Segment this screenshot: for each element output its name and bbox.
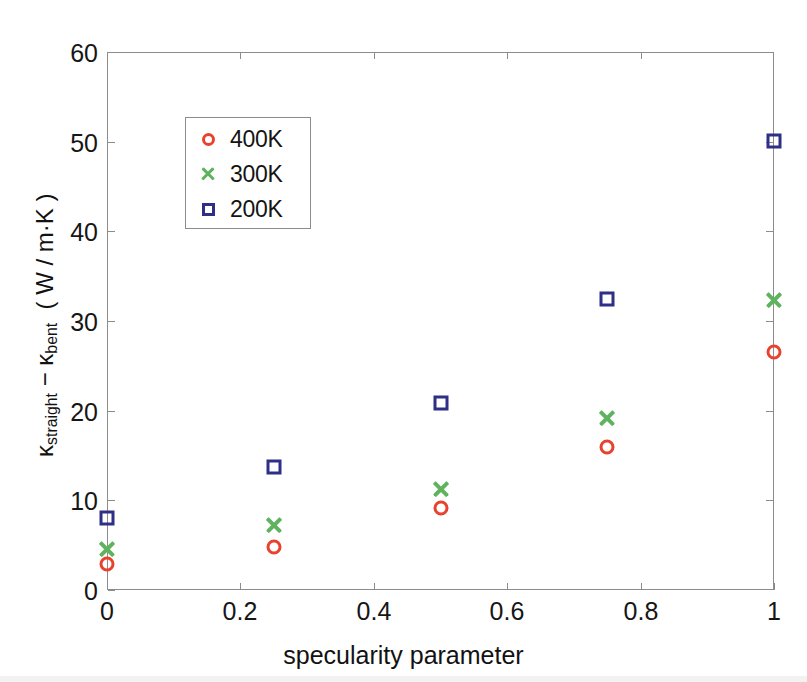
y-axis-kappa-1: κ <box>31 445 58 457</box>
data-point <box>267 540 282 555</box>
data-point <box>434 501 449 516</box>
x-tick-label: 0.2 <box>200 597 280 626</box>
y-axis-kappa-2: κ <box>31 354 58 366</box>
data-point <box>100 557 115 572</box>
y-axis-minus: − <box>31 366 58 393</box>
legend-label-400K: 400K <box>230 126 283 153</box>
legend-item-400K: 400K <box>186 124 312 154</box>
data-point <box>600 440 615 455</box>
square-marker-icon <box>186 194 230 224</box>
x-tick-label: 0.4 <box>334 597 414 626</box>
data-point <box>434 396 449 411</box>
data-point <box>599 410 615 426</box>
data-point <box>766 292 782 308</box>
data-point <box>767 134 782 149</box>
data-point <box>600 292 615 307</box>
x-tick-label: 0.6 <box>467 597 547 626</box>
x-tick-label: 1 <box>734 597 807 626</box>
circle-marker-icon <box>186 124 230 154</box>
data-point <box>767 345 782 360</box>
data-point <box>99 541 115 557</box>
y-axis-units-text: ( W / m·K ) <box>31 194 58 310</box>
y-axis-title: κstraight − κbent ( W / m·K ) <box>31 65 61 585</box>
legend: 400K 300K 200K <box>185 117 311 229</box>
legend-label-300K: 300K <box>230 161 283 188</box>
y-tick-label: 60 <box>28 39 98 68</box>
y-axis-sub-bent: bent <box>43 323 60 354</box>
figure-canvas: 60 50 40 30 20 10 0 0 0.2 0.4 0.6 0.8 1 … <box>0 0 807 682</box>
x-tick-label: 0 <box>67 597 147 626</box>
legend-item-200K: 200K <box>186 194 312 224</box>
scan-edge-artifact <box>0 676 807 682</box>
x-tick-label: 0.8 <box>601 597 681 626</box>
legend-label-200K: 200K <box>230 196 283 223</box>
data-point <box>100 511 115 526</box>
legend-item-300K: 300K <box>186 159 312 189</box>
x-axis-title: specularity parameter <box>0 641 807 670</box>
y-axis-units <box>31 309 58 322</box>
data-point <box>266 517 282 533</box>
data-point <box>267 460 282 475</box>
data-point <box>433 481 449 497</box>
x-marker-icon <box>186 159 230 189</box>
y-axis-sub-straight: straight <box>43 393 60 445</box>
